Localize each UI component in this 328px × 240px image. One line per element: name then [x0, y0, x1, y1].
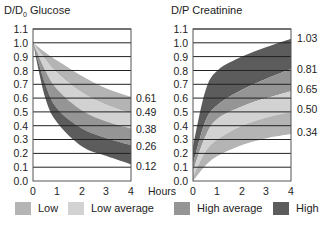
y-tick: 1.0: [2, 38, 28, 48]
legend-swatch-high: [273, 202, 289, 215]
x-tick: 1: [211, 186, 223, 196]
legend-swatch-low: [15, 202, 31, 215]
y-tick: 0.4: [162, 121, 188, 131]
end-label: 0.34: [297, 127, 317, 137]
y-tick: 1.1: [2, 24, 28, 34]
y-tick: 0.0: [2, 176, 28, 186]
y-tick: 0.3: [162, 134, 188, 144]
end-label: 0.61: [136, 93, 156, 103]
end-label: 0.38: [136, 124, 156, 134]
y-tick: 0.1: [162, 162, 188, 172]
y-tick: 0.5: [2, 107, 28, 117]
y-tick: 0.4: [2, 121, 28, 131]
legend-swatch-high-average: [174, 202, 190, 215]
legend-label: Low: [38, 202, 58, 214]
x-tick: 2: [76, 186, 88, 196]
x-tick: 2: [236, 186, 248, 196]
y-tick: 0.3: [2, 134, 28, 144]
end-label: 0.12: [136, 161, 156, 171]
y-tick: 0.6: [2, 93, 28, 103]
x-tick: 1: [51, 186, 63, 196]
end-label: 0.50: [297, 104, 317, 114]
legend-swatch-low-average: [68, 202, 84, 215]
y-tick: 0.2: [162, 148, 188, 158]
x-tick: 0: [27, 186, 39, 196]
y-tick: 0.6: [162, 93, 188, 103]
end-label: 0.65: [297, 84, 317, 94]
legend: Low Low average High average High: [0, 201, 328, 217]
y-tick: 0.9: [2, 52, 28, 62]
x-tick: 3: [100, 186, 112, 196]
end-label: 0.26: [136, 141, 156, 151]
x-tick: 4: [125, 186, 137, 196]
end-label: 0.81: [297, 64, 317, 74]
x-axis-label: Hours: [148, 186, 176, 196]
end-label: 1.03: [297, 33, 317, 43]
legend-label: High average: [197, 202, 262, 214]
y-tick: 0.7: [2, 79, 28, 89]
glucose-plot-area: [33, 29, 131, 181]
x-tick: 0: [187, 186, 199, 196]
x-tick: 4: [285, 186, 297, 196]
legend-label: Low average: [91, 202, 154, 214]
legend-item-low-average: Low average: [68, 201, 154, 215]
y-tick: 1.1: [162, 24, 188, 34]
legend-item-high: High: [273, 201, 319, 215]
y-tick: 1.0: [162, 38, 188, 48]
creatinine-plot-area: [193, 29, 291, 181]
y-tick: 0.9: [162, 52, 188, 62]
y-tick: 0.5: [162, 107, 188, 117]
x-tick: 3: [260, 186, 272, 196]
y-tick: 0.1: [2, 162, 28, 172]
legend-item-high-average: High average: [174, 201, 262, 215]
legend-label: High: [296, 202, 319, 214]
legend-item-low: Low: [15, 201, 58, 215]
y-tick: 0.2: [2, 148, 28, 158]
y-tick: 0.8: [162, 66, 188, 76]
y-tick: 0.8: [2, 66, 28, 76]
y-tick: 0.7: [162, 79, 188, 89]
end-label: 0.49: [136, 107, 156, 117]
